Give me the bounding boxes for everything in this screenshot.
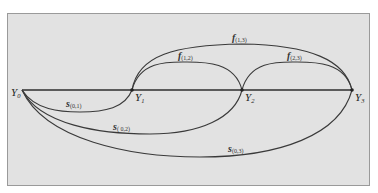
sequence-diagram: Y0 Y1 Y2 Y3 f(1,2) f(2,3) f(1,3) s(0,1) … <box>0 0 378 193</box>
node-marker-y1 <box>130 88 134 92</box>
node-marker-y3 <box>350 88 354 92</box>
node-marker-y2 <box>240 88 244 92</box>
diagram-panel <box>8 14 370 186</box>
